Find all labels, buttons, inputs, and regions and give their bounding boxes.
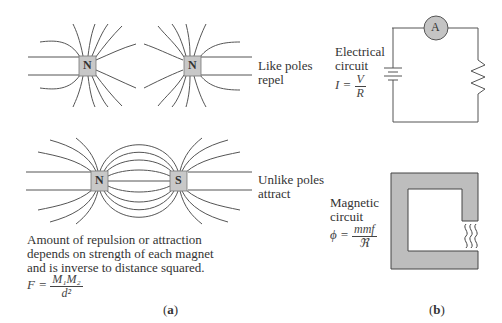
- electrical-circuit-wires: [392, 28, 485, 122]
- magnetic-title-line1: Magnetic: [330, 195, 379, 210]
- ohms-law-formula: I = V R: [335, 73, 366, 100]
- caption-unlike-poles-line2: attract: [258, 186, 290, 201]
- force-fraction: M₁M₂ d²: [50, 273, 82, 300]
- panel-label-b: (b): [429, 302, 445, 318]
- flux-denominator: ℜ: [352, 237, 377, 250]
- caption-like-poles-line2: repel: [258, 72, 284, 87]
- flux-formula: ϕ = mmf ℜ: [330, 223, 377, 250]
- pole-label-s-bottom-right: S: [175, 173, 182, 188]
- flux-fraction: mmf ℜ: [352, 223, 377, 250]
- force-formula: F = M₁M₂ d²: [27, 273, 83, 300]
- ohms-law-denominator: R: [355, 87, 366, 100]
- electrical-title-line2: circuit: [335, 58, 368, 73]
- pole-label-n-top-left: N: [83, 58, 92, 73]
- field-lines-like-poles: [28, 24, 252, 107]
- flux-formula-lhs: ϕ =: [330, 227, 349, 242]
- caption-like-poles-line1: Like poles: [258, 58, 313, 73]
- magnetic-core: [391, 173, 478, 269]
- field-lines-unlike-poles: [26, 138, 252, 224]
- ohms-law-lhs: I =: [335, 77, 351, 92]
- pole-label-n-bottom-left: N: [95, 173, 104, 188]
- panel-label-a: (a): [163, 302, 178, 318]
- ohms-law-fraction: V R: [355, 73, 366, 100]
- ammeter-label: A: [431, 20, 440, 35]
- electrical-title-line1: Electrical: [335, 44, 385, 59]
- pole-label-n-top-right: N: [188, 58, 197, 73]
- note-line-1: Amount of repulsion or attraction: [27, 232, 202, 247]
- force-formula-lhs: F =: [27, 277, 47, 292]
- caption-unlike-poles-line1: Unlike poles: [258, 172, 324, 187]
- air-gap-flux-icon: [465, 224, 477, 248]
- flux-numerator: mmf: [352, 223, 377, 237]
- ohms-law-numerator: V: [355, 73, 366, 87]
- note-line-2: depends on strength of each magnet: [27, 246, 214, 261]
- force-denominator: d²: [50, 287, 82, 300]
- force-numerator: M₁M₂: [50, 273, 82, 287]
- panel-b-letter: b: [433, 302, 440, 317]
- battery-icon: [384, 68, 402, 80]
